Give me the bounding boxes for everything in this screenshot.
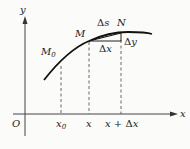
delta-y-label: Δy (124, 36, 137, 47)
delta-s-label: Δs (97, 17, 109, 28)
y-axis-arrow-icon (23, 16, 28, 24)
delta-x-label: Δx (99, 43, 112, 54)
arc-length-diagram: y x O M0 M N Δs Δy Δx x0 x x + Δx (0, 0, 190, 149)
tick-label-x0: x0 (56, 118, 67, 131)
tick-label-x-plus-dx: x + Δx (105, 118, 139, 129)
x-axis-label: x (180, 108, 186, 119)
tick-label-x: x (86, 118, 92, 129)
point-m0-label: M0 (40, 46, 56, 59)
y-axis-label: y (19, 4, 26, 15)
x-axis-arrow-icon (170, 112, 178, 117)
origin-label: O (12, 118, 20, 129)
point-m-label: M (74, 28, 86, 39)
point-n-label: N (116, 17, 127, 28)
